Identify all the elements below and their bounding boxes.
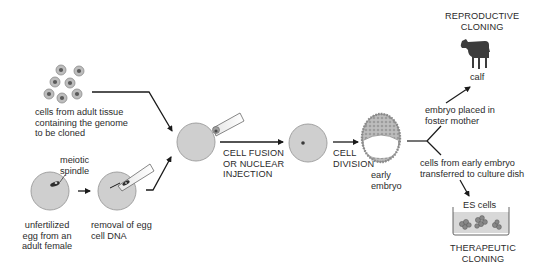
label-therapeutic-cloning: THERAPEUTIC CLONING [450,243,516,264]
culture-dish-icon [453,207,509,235]
calf-icon [461,39,490,69]
label-adult-cells: cells from adult tissue containing the g… [35,107,128,139]
arrow-to-calf [446,87,470,103]
label-culture-dish: cells from early embryo transferred to c… [420,158,524,179]
reconstructed-cell-icon [289,124,327,162]
branch-connector [407,126,441,155]
arrow-to-es-cells [460,180,469,196]
label-foster-mother: embryo placed in foster mother [425,105,495,126]
label-removal-of-egg-dna: removal of egg cell DNA [91,220,152,241]
label-unfertilized-egg: unfertilized egg from an adult female [22,220,72,252]
label-meiotic-spindle: meiotic spindle [60,155,89,176]
label-cell-division: CELL DIVISION [333,148,374,169]
adult-cells-icon [44,65,84,103]
label-calf: calf [470,72,484,83]
enucleated-egg-icon [98,164,154,210]
label-reproductive-cloning: REPRODUCTIVE CLONING [445,11,519,32]
label-early-embryo: early embryo [371,170,402,191]
label-es-cells: ES cells [463,200,496,211]
label-cell-fusion: CELL FUSION OR NUCLEAR INJECTION [223,148,284,180]
cloning-diagram: cells from adult tissue containing the g… [0,0,554,274]
